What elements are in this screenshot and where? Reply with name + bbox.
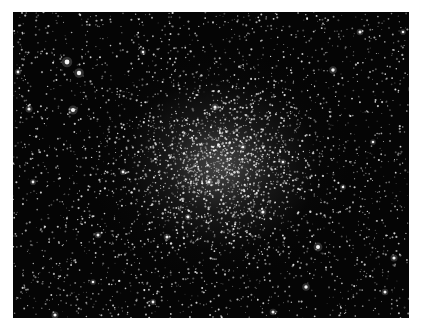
star-cluster-photo	[13, 12, 409, 318]
stars-layer	[13, 12, 409, 318]
